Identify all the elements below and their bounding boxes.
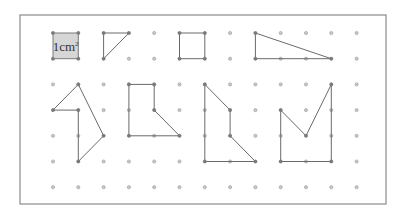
grid-dot: [102, 186, 105, 189]
grid-dot: [355, 186, 358, 189]
grid-dot: [304, 83, 307, 86]
grid-dot: [51, 186, 54, 189]
vertex-dot: [203, 160, 207, 164]
vertex-dot: [51, 31, 55, 35]
vertex-dot: [203, 31, 207, 35]
grid-dot: [127, 186, 130, 189]
vertex-dot: [77, 31, 81, 35]
vertex-dot: [304, 134, 308, 138]
grid-dot: [355, 31, 358, 34]
grid-dot: [355, 57, 358, 60]
vertex-dot: [152, 83, 156, 87]
vertex-dot: [330, 160, 334, 164]
unit-square: 1cm2: [53, 33, 79, 59]
grid-dot: [279, 83, 282, 86]
grid-dot: [229, 83, 232, 86]
grid-dot: [254, 186, 257, 189]
grid-dot: [304, 109, 307, 112]
vertex-dot: [51, 57, 55, 61]
vertex-dot: [102, 57, 106, 61]
grid-dot: [153, 57, 156, 60]
vertex-dot: [51, 108, 55, 112]
grid-dot: [51, 160, 54, 163]
grid-dot: [178, 160, 181, 163]
vertex-dot: [279, 160, 283, 164]
grid-dot: [304, 186, 307, 189]
vertex-dot: [77, 57, 81, 61]
grid-dot: [330, 31, 333, 34]
grid-dot: [355, 160, 358, 163]
vertex-dot: [178, 134, 182, 138]
vertex-dot: [102, 134, 106, 138]
vertex-dot: [279, 108, 283, 112]
vertex-dot: [178, 57, 182, 61]
grid-dot: [254, 109, 257, 112]
grid-dot: [153, 186, 156, 189]
grid-dot: [178, 186, 181, 189]
vertex-dot: [254, 31, 258, 35]
grid-dot: [203, 186, 206, 189]
vertex-dot: [228, 134, 232, 138]
grid-dot: [127, 57, 130, 60]
grid-dot: [77, 186, 80, 189]
vertex-dot: [330, 83, 334, 87]
vertex-dot: [330, 57, 334, 61]
grid-dot: [51, 134, 54, 137]
vertex-dot: [77, 160, 81, 164]
vertex-dot: [127, 134, 131, 138]
vertex-dot: [254, 160, 258, 164]
grid-dot: [127, 160, 130, 163]
grid-dot: [355, 134, 358, 137]
vertex-dot: [127, 31, 131, 35]
grid-dot: [330, 186, 333, 189]
grid-dot: [153, 160, 156, 163]
vertex-dot: [178, 31, 182, 35]
grid-dot: [51, 83, 54, 86]
vertex-dot: [228, 108, 232, 112]
grid-dot: [355, 83, 358, 86]
grid-dot: [102, 160, 105, 163]
vertex-dot: [77, 108, 81, 112]
grid-dot: [304, 31, 307, 34]
vertex-dot: [203, 57, 207, 61]
grid-dot: [102, 83, 105, 86]
vertex-dot: [152, 108, 156, 112]
vertex-dot: [102, 31, 106, 35]
grid-dot: [254, 134, 257, 137]
grid-dot: [229, 186, 232, 189]
vertex-dot: [254, 57, 258, 61]
dot-grid-diagram: 1cm2: [0, 0, 409, 218]
grid-dot: [254, 83, 257, 86]
unit-label-text: 1cm: [53, 39, 75, 54]
grid-dot: [279, 186, 282, 189]
grid-dot: [178, 109, 181, 112]
vertex-dot: [203, 83, 207, 87]
grid-dot: [102, 109, 105, 112]
grid-dot: [229, 57, 232, 60]
grid-dot: [178, 83, 181, 86]
vertex-dot: [77, 83, 81, 87]
grid-dot: [355, 109, 358, 112]
unit-label-superscript: 2: [75, 40, 79, 48]
vertex-dot: [127, 83, 131, 87]
grid-dot: [229, 31, 232, 34]
grid-dot: [279, 31, 282, 34]
grid-dot: [153, 31, 156, 34]
